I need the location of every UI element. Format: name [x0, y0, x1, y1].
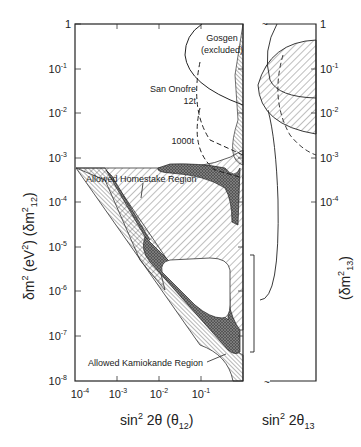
y-axis-label: δm2 (eV2) (δm212): [20, 192, 39, 300]
1000t-label: 1000t: [171, 136, 194, 146]
svg-text:10-1: 10-1: [49, 62, 68, 75]
svg-text:10-2: 10-2: [49, 106, 68, 119]
svg-text:10-7: 10-7: [49, 329, 68, 342]
right-x-axis-label: sin2 2θ13: [262, 411, 314, 431]
svg-text:10-2: 10-2: [150, 387, 169, 400]
svg-text:10-4: 10-4: [49, 195, 68, 208]
arrow-link: [260, 110, 278, 300]
svg-text:10-4: 10-4: [71, 387, 90, 400]
neutrino-oscillation-figure: 1 10-1 10-2 10-3 10-4 10-5 10-6 10-7 10-…: [0, 0, 361, 447]
svg-text:10-3: 10-3: [109, 387, 128, 400]
svg-text:~: ~: [264, 377, 270, 388]
theta13-region: [258, 40, 316, 134]
svg-text:10-3: 10-3: [49, 151, 68, 164]
gosgen-sub-label: (excluded): [201, 45, 243, 55]
svg-text:10-6: 10-6: [49, 284, 68, 297]
svg-text:10-5: 10-5: [49, 240, 68, 253]
bracket: [250, 255, 254, 352]
svg-text:1: 1: [320, 18, 326, 30]
gosgen-label: Gosgen: [206, 33, 238, 43]
x-axis-label: sin2 2θ (θ12): [120, 411, 193, 431]
right-y-axis-label: (δm213): [336, 256, 355, 300]
sanonofre-12t-label: 12t: [183, 96, 196, 106]
right-panel: ~ ~ 1 10-1 10-2 10-3 10-4 (δm213) sin2 2…: [258, 18, 355, 431]
svg-text:~: ~: [262, 19, 268, 30]
svg-text:10-1: 10-1: [320, 62, 339, 75]
homestake-label: Allowed Homestake Region: [86, 174, 197, 184]
svg-text:1: 1: [65, 18, 71, 30]
right-y-tick-labels: 1 10-1 10-2 10-3 10-4: [320, 18, 339, 208]
kamiokande-label: Allowed Kamiokande Region: [88, 358, 203, 368]
sanonofre-label: San Onofre: [150, 84, 196, 94]
svg-text:10-3: 10-3: [320, 151, 339, 164]
x-tick-labels: 10-4 10-3 10-2 10-1: [71, 387, 211, 400]
svg-text:10-8: 10-8: [49, 374, 68, 387]
svg-text:10-1: 10-1: [192, 387, 211, 400]
svg-text:10-2: 10-2: [320, 106, 339, 119]
main-panel: 1 10-1 10-2 10-3 10-4 10-5 10-6 10-7 10-…: [20, 18, 243, 431]
y-tick-labels: 1 10-1 10-2 10-3 10-4 10-5 10-6 10-7 10-…: [49, 18, 71, 387]
svg-text:10-4: 10-4: [320, 195, 339, 208]
